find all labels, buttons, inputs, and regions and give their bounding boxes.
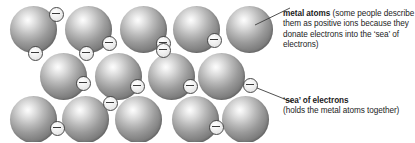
callout-sea-heading: ‘sea’ of electrons — [283, 96, 349, 105]
atom-lattice — [0, 0, 280, 142]
callout-metal-atoms: metal atoms (some people describe them a… — [283, 9, 415, 51]
electron-icon — [79, 46, 94, 61]
electron-icon — [50, 121, 65, 136]
callout-sea-body: (holds the metal atoms together) — [283, 106, 399, 115]
electron-icon — [183, 79, 198, 94]
electron-icon — [102, 36, 117, 51]
electron-icon — [207, 33, 222, 48]
electron-icon — [103, 96, 118, 111]
electron-icon — [209, 120, 224, 135]
callout-metal-atoms-heading: metal atoms — [283, 9, 330, 18]
metal-atom — [62, 96, 109, 143]
electron-icon — [49, 7, 64, 22]
metallic-bonding-diagram: metal atoms (some people describe them a… — [0, 0, 415, 142]
metal-atom — [226, 6, 273, 53]
metal-atom — [222, 96, 269, 143]
metal-atom — [115, 96, 162, 143]
metal-atom — [172, 96, 219, 143]
electron-icon — [156, 43, 171, 58]
electron-icon — [130, 79, 145, 94]
metal-atom — [198, 53, 245, 100]
electron-icon — [76, 76, 91, 91]
metal-atom — [10, 96, 57, 143]
electron-icon — [243, 78, 258, 93]
callout-sea-of-electrons: ‘sea’ of electrons (holds the metal atom… — [283, 96, 415, 117]
electron-icon — [28, 46, 43, 61]
